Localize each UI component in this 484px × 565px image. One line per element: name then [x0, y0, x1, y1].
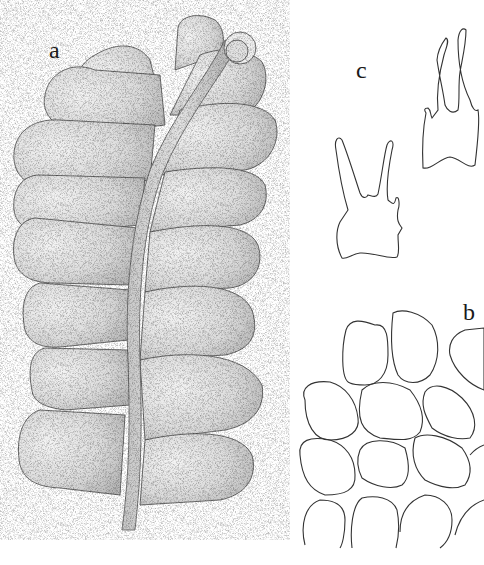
illustration [0, 0, 484, 565]
panel-b-cells [300, 311, 484, 548]
panel-label-c: c [356, 58, 367, 82]
panel-label-a: a [49, 38, 60, 62]
panel-a-shoot [0, 0, 290, 540]
figure-plate: a c b [0, 0, 484, 565]
panel-label-b: b [463, 300, 475, 324]
